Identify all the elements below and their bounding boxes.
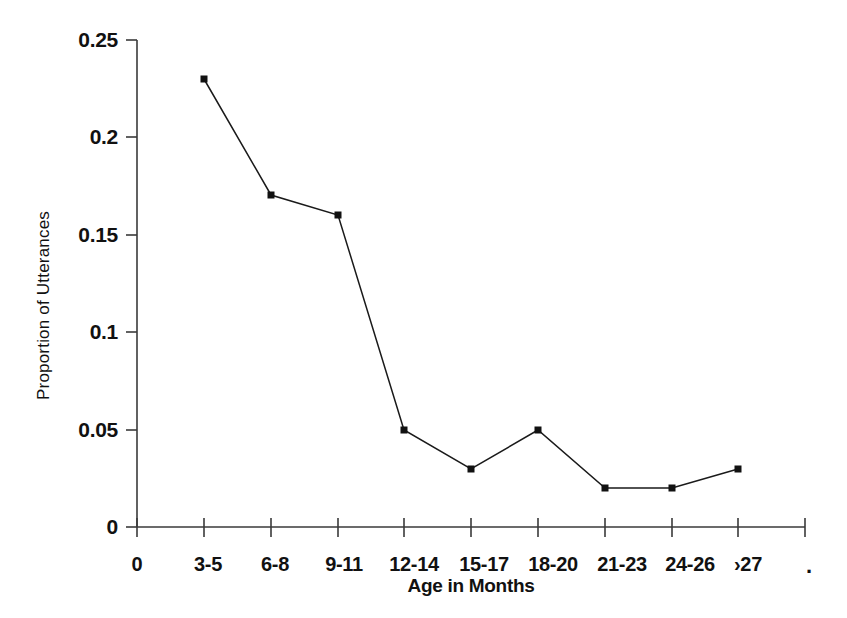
y-tick-label-0: 0: [46, 515, 118, 539]
data-point: [335, 212, 342, 219]
x-tick-label-3-5: 3-5: [194, 553, 222, 576]
x-tick-label-12-14: 12-14: [389, 553, 439, 576]
data-point: [602, 485, 609, 492]
y-tick-label-0.25: 0.25: [46, 28, 118, 52]
y-tick-label-0.2: 0.2: [46, 125, 118, 149]
data-point: [468, 466, 475, 473]
data-point: [268, 192, 275, 199]
y-axis-title: Proportion of Utterances: [34, 211, 54, 400]
x-tick-label-0: 0: [132, 553, 143, 576]
y-axis-ticks: [126, 40, 137, 527]
x-tick-label-18-20: 18-20: [528, 553, 578, 576]
x-tick-label-15-17: 15-17: [459, 553, 509, 576]
y-tick-label-0.15: 0.15: [46, 223, 118, 247]
data-line: [204, 79, 738, 488]
y-tick-label-0.1: 0.1: [46, 320, 118, 344]
data-point: [401, 427, 408, 434]
x-tick-label-24-26: 24-26: [665, 553, 715, 576]
x-tick-label-6-8: 6-8: [261, 553, 289, 576]
data-point: [735, 466, 742, 473]
trailing-period-mark: .: [806, 553, 812, 579]
data-point: [535, 427, 542, 434]
x-tick-label-21-23: 21-23: [597, 553, 647, 576]
y-tick-label-0.05: 0.05: [46, 418, 118, 442]
data-point: [201, 76, 208, 83]
data-point: [669, 485, 676, 492]
chart-figure: 0.25 0.2 0.15 0.1 0.05 0 Proportion of U…: [0, 0, 847, 618]
x-tick-label-over-27: ›27: [734, 553, 762, 576]
x-tick-label-9-11: 9-11: [325, 553, 363, 576]
line-chart-plot: [0, 0, 847, 618]
x-axis-title: Age in Months: [408, 575, 535, 597]
data-point-markers: [201, 76, 742, 492]
